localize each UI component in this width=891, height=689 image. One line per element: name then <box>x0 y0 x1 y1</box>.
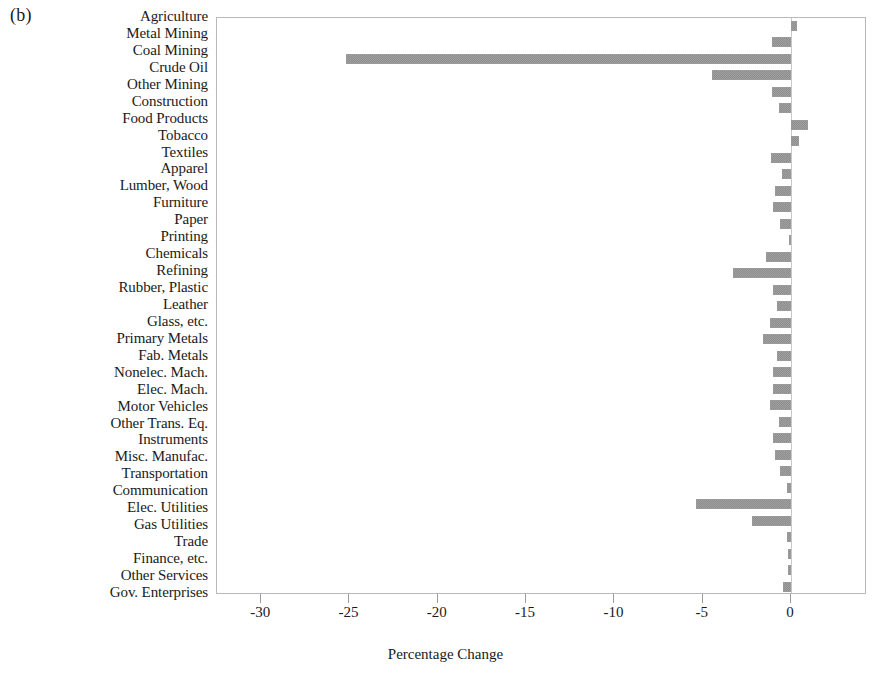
category-label: Furniture <box>60 194 208 211</box>
x-axis-tick-label: -20 <box>427 604 447 621</box>
x-axis-tick <box>260 594 261 603</box>
bar <box>791 21 797 31</box>
bar-row <box>217 348 865 364</box>
category-label: Gas Utilities <box>60 516 208 533</box>
category-label: Coal Mining <box>60 42 208 59</box>
bar <box>789 235 791 245</box>
category-label: Other Mining <box>60 76 208 93</box>
x-axis-tick-label: -5 <box>695 604 708 621</box>
category-label: Crude Oil <box>60 59 208 76</box>
bar-row <box>217 216 865 232</box>
bar-row <box>217 513 865 529</box>
bar <box>773 202 791 212</box>
bar-row <box>217 496 865 512</box>
category-label: Elec. Mach. <box>60 381 208 398</box>
bar <box>780 466 791 476</box>
x-axis-title: Percentage Change <box>0 646 891 663</box>
category-label: Leather <box>60 296 208 313</box>
bar <box>773 285 791 295</box>
bar <box>777 301 791 311</box>
x-axis-tick-label: -10 <box>603 604 623 621</box>
bar <box>773 433 791 443</box>
bar-row <box>217 183 865 199</box>
bar-row <box>217 100 865 116</box>
category-label: Primary Metals <box>60 330 208 347</box>
category-label: Food Products <box>60 110 208 127</box>
bar-row <box>217 150 865 166</box>
bar <box>771 153 791 163</box>
bar-row <box>217 397 865 413</box>
bar <box>791 120 808 130</box>
bar-row <box>217 463 865 479</box>
bar-row <box>217 562 865 578</box>
x-axis: -30-25-20-15-10-50 <box>216 594 866 595</box>
bar <box>773 384 791 394</box>
bar-row <box>217 18 865 34</box>
category-label: Finance, etc. <box>60 550 208 567</box>
category-label: Metal Mining <box>60 25 208 42</box>
category-label: Other Services <box>60 567 208 584</box>
category-label: Tobacco <box>60 127 208 144</box>
bar-row <box>217 133 865 149</box>
category-label: Construction <box>60 93 208 110</box>
category-label: Textiles <box>60 144 208 161</box>
bar <box>787 483 791 493</box>
bar-row <box>217 84 865 100</box>
bar <box>780 219 791 229</box>
bar <box>783 582 791 592</box>
x-axis-tick <box>525 594 526 603</box>
x-axis-tick <box>613 594 614 603</box>
category-label: Communication <box>60 482 208 499</box>
category-label: Transportation <box>60 465 208 482</box>
x-axis-tick-label: -30 <box>250 604 270 621</box>
bars-container <box>217 18 865 593</box>
category-label: Motor Vehicles <box>60 398 208 415</box>
x-axis-tick <box>437 594 438 603</box>
category-label: Glass, etc. <box>60 313 208 330</box>
bar <box>752 516 791 526</box>
bar-row <box>217 265 865 281</box>
category-label: Agriculture <box>60 8 208 25</box>
bar-row <box>217 381 865 397</box>
category-label: Paper <box>60 211 208 228</box>
bar <box>773 367 791 377</box>
bar <box>770 318 791 328</box>
bar <box>787 532 791 542</box>
bar <box>733 268 791 278</box>
bar <box>779 103 791 113</box>
bar <box>763 334 791 344</box>
bar <box>775 186 791 196</box>
category-label: Refining <box>60 262 208 279</box>
bar-row <box>217 298 865 314</box>
bar <box>770 400 791 410</box>
bar-row <box>217 166 865 182</box>
bar-row <box>217 249 865 265</box>
x-axis-tick-label: -15 <box>515 604 535 621</box>
bar-row <box>217 546 865 562</box>
bar-row <box>217 282 865 298</box>
bar-row <box>217 480 865 496</box>
bar-row <box>217 364 865 380</box>
category-label: Fab. Metals <box>60 347 208 364</box>
category-label: Instruments <box>60 431 208 448</box>
bar <box>696 499 791 509</box>
category-label: Gov. Enterprises <box>60 584 208 601</box>
bar <box>766 252 791 262</box>
bar <box>775 450 791 460</box>
bar-row <box>217 430 865 446</box>
bar <box>777 351 791 361</box>
category-label: Trade <box>60 533 208 550</box>
bar-row <box>217 331 865 347</box>
bar <box>346 54 791 64</box>
x-axis-tick-label: -25 <box>338 604 358 621</box>
x-axis-tick <box>702 594 703 603</box>
category-label: Other Trans. Eq. <box>60 415 208 432</box>
bar-row <box>217 117 865 133</box>
bar <box>782 169 791 179</box>
category-label: Nonelec. Mach. <box>60 364 208 381</box>
bar <box>712 70 791 80</box>
category-label: Misc. Manufac. <box>60 448 208 465</box>
bar-row <box>217 414 865 430</box>
category-label: Lumber, Wood <box>60 177 208 194</box>
x-axis-tick <box>348 594 349 603</box>
